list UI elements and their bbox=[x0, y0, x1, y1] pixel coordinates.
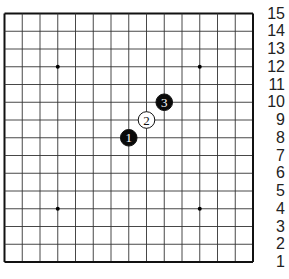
row-label: 15 bbox=[255, 6, 285, 22]
row-label: 12 bbox=[255, 59, 285, 75]
row-label: 13 bbox=[255, 41, 285, 57]
move-number: 2 bbox=[143, 113, 150, 128]
row-label: 3 bbox=[255, 219, 285, 235]
white-stone: 2 bbox=[138, 112, 155, 129]
row-label: 2 bbox=[255, 236, 285, 252]
row-label: 9 bbox=[255, 112, 285, 128]
star-point bbox=[56, 65, 60, 69]
row-label: 11 bbox=[255, 77, 285, 93]
row-label: 14 bbox=[255, 23, 285, 39]
row-label: 8 bbox=[255, 130, 285, 146]
star-point bbox=[198, 65, 202, 69]
row-label: 7 bbox=[255, 148, 285, 164]
row-label: 4 bbox=[255, 201, 285, 217]
star-point bbox=[56, 207, 60, 211]
star-point bbox=[198, 207, 202, 211]
row-label: 10 bbox=[255, 94, 285, 110]
black-stone: 3 bbox=[156, 94, 173, 111]
move-number: 3 bbox=[161, 95, 168, 110]
go-board[interactable]: 123 bbox=[0, 0, 289, 279]
move-number: 1 bbox=[126, 130, 133, 145]
black-stone: 1 bbox=[120, 129, 137, 146]
row-label: 6 bbox=[255, 165, 285, 181]
row-label: 1 bbox=[255, 254, 285, 270]
row-label: 5 bbox=[255, 183, 285, 199]
